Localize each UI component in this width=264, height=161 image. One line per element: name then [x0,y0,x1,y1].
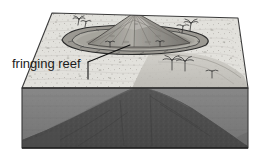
fringing-reef-label: fringing reef [12,56,81,71]
fringing-reef-figure: fringing reef [0,0,264,161]
cross-section-face [22,88,248,149]
block-diagram-svg: fringing reef [0,0,264,161]
ocean-surface-face [22,12,248,88]
